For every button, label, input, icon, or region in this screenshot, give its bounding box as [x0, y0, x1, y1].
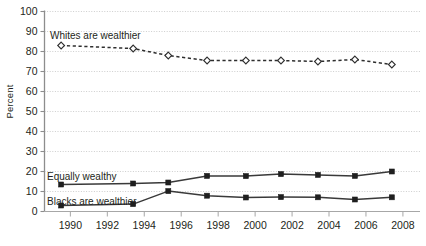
data-point-marker: [389, 169, 394, 174]
series-line-0: [61, 46, 392, 65]
data-point-marker: [58, 42, 65, 49]
data-point-marker: [352, 197, 357, 202]
y-tick-label: 10: [26, 185, 38, 197]
data-point-marker: [278, 172, 283, 177]
y-tick-label: 70: [26, 65, 38, 77]
data-point-marker: [166, 180, 171, 185]
data-point-marker: [242, 57, 249, 64]
y-tick-label: 20: [26, 165, 38, 177]
y-tick-label: 90: [26, 25, 38, 37]
data-point-marker: [205, 193, 210, 198]
y-tick-label: 30: [26, 145, 38, 157]
data-point-marker: [59, 182, 64, 187]
series-annotations-group: Whites are wealthierEqually wealthyBlack…: [47, 30, 141, 207]
x-tick-label: 2000: [243, 219, 267, 231]
line-chart: 0102030405060708090100 19901992199419961…: [0, 0, 426, 246]
annotation-blacks: Blacks are wealthier: [47, 196, 137, 207]
data-point-marker: [352, 173, 357, 178]
annotation-equally: Equally wealthy: [47, 171, 116, 182]
chart-container: 0102030405060708090100 19901992199419961…: [0, 0, 426, 246]
data-point-marker: [315, 58, 322, 65]
data-point-marker: [166, 189, 171, 194]
data-point-marker: [315, 172, 320, 177]
data-point-marker: [165, 52, 172, 59]
data-point-marker: [388, 61, 395, 68]
y-tick-label: 80: [26, 45, 38, 57]
x-tick-marks-group: [70, 212, 403, 217]
y-tick-label: 0: [32, 205, 38, 217]
data-point-marker: [130, 45, 137, 52]
data-point-marker: [351, 56, 358, 63]
data-point-marker: [243, 174, 248, 179]
y-tick-label: 100: [20, 5, 38, 17]
data-point-marker: [315, 195, 320, 200]
x-tick-label: 1992: [96, 219, 120, 231]
y-tick-label: 50: [26, 105, 38, 117]
x-tick-label: 1996: [170, 219, 194, 231]
y-axis-title: Percent: [4, 84, 15, 118]
data-point-marker: [278, 195, 283, 200]
x-tick-label: 1994: [133, 219, 157, 231]
y-tick-labels-group: 0102030405060708090100: [20, 5, 38, 217]
x-tick-label: 1990: [59, 219, 83, 231]
x-tick-label: 2002: [280, 219, 304, 231]
y-tick-label: 60: [26, 85, 38, 97]
x-tick-labels-group: 1990199219941996199820002002200420062008: [59, 219, 415, 231]
data-point-marker: [243, 195, 248, 200]
data-point-marker: [389, 195, 394, 200]
annotation-whites: Whites are wealthier: [50, 30, 141, 41]
x-tick-label: 2004: [317, 219, 341, 231]
data-point-marker: [278, 57, 285, 64]
data-point-marker: [131, 181, 136, 186]
data-point-marker: [205, 173, 210, 178]
x-tick-label: 2006: [354, 219, 378, 231]
x-tick-label: 2008: [391, 219, 415, 231]
x-tick-label: 1998: [206, 219, 230, 231]
data-point-marker: [204, 57, 211, 64]
y-tick-label: 40: [26, 125, 38, 137]
